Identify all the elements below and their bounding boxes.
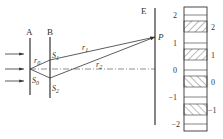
s1-label: S1: [52, 51, 59, 61]
svg-text:0: 0: [173, 66, 177, 75]
fringe-pattern: [184, 7, 207, 131]
screen-a-label: A: [26, 27, 33, 37]
screen-b-label: B: [47, 27, 53, 37]
svg-text:2: 2: [211, 23, 215, 32]
dark-fringe-labels: 2 1 0 −1: [208, 23, 217, 115]
s2-label: S2: [52, 84, 59, 94]
r1-label: r1: [82, 43, 88, 53]
incident-light-arrows: [5, 54, 24, 81]
s0-label: S0: [32, 76, 39, 86]
r0-label: r0: [34, 56, 40, 66]
bright-fringe-labels: 2 1 0 −1 −2: [168, 11, 180, 129]
svg-text:−1: −1: [168, 93, 177, 102]
screen-e-label: E: [141, 6, 147, 16]
r2-label: r2: [96, 60, 102, 70]
svg-text:−2: −2: [171, 120, 180, 129]
svg-text:2: 2: [173, 11, 177, 20]
svg-text:1: 1: [173, 39, 177, 48]
point-p-label: P: [157, 32, 164, 42]
svg-text:0: 0: [211, 78, 215, 87]
double-slit-diagram: A B r0 S0 S1 S2 r1 r2 E P 2 1 0 −1: [0, 0, 223, 139]
svg-text:1: 1: [211, 51, 215, 60]
svg-text:−1: −1: [208, 106, 217, 115]
light-rays: [30, 37, 155, 78]
